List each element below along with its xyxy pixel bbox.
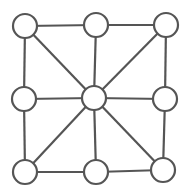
node-top-right — [154, 13, 178, 37]
node-top-left — [13, 14, 37, 38]
edge-bottom-right-center — [94, 98, 163, 170]
graph-diagram — [0, 0, 187, 193]
node-middle-right — [153, 87, 177, 111]
edge-top-left-center — [25, 26, 94, 98]
edge-top-right-center — [94, 25, 166, 98]
node-middle-left — [12, 87, 36, 111]
node-bottom-middle — [84, 160, 108, 184]
node-top-middle — [84, 13, 108, 37]
node-bottom-left — [13, 160, 37, 184]
edge-bottom-left-center — [25, 98, 94, 172]
node-bottom-right — [151, 158, 175, 182]
node-center — [82, 86, 106, 110]
